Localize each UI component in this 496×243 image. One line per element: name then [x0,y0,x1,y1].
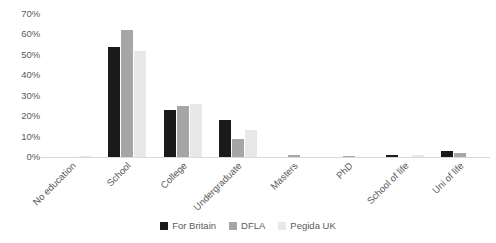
bar[interactable] [108,47,120,157]
y-axis-tick-label: 60% [0,29,40,39]
bar-group [433,14,489,157]
bar-group [266,14,322,157]
bar-group [377,14,433,157]
bar-group [100,14,156,157]
bar[interactable] [219,120,231,157]
y-axis: 70%60%50%40%30%20%10%0% [0,14,40,157]
x-axis-tick-label: Uni of life [430,160,466,196]
chart-legend: For BritainDFLAPegida UK [0,221,496,231]
y-axis-tick-label: 30% [0,91,40,101]
y-axis-tick-label: 50% [0,50,40,60]
bar-group [322,14,378,157]
plot-area [44,14,488,157]
y-axis-tick-label: 40% [0,70,40,80]
y-axis-tick-label: 70% [0,9,40,19]
bar-group [211,14,267,157]
x-axis-labels: No educationSchoolCollegeUndergraduateMa… [44,160,488,215]
bar-chart: 70%60%50%40%30%20%10%0% No educationScho… [0,0,496,243]
x-axis-line [40,157,490,158]
bar[interactable] [441,151,453,157]
x-axis-tick-label: College [158,160,189,191]
x-axis-tick-label: School [105,160,133,188]
legend-swatch-icon [229,222,237,230]
bar[interactable] [245,130,257,157]
bar-group [155,14,211,157]
legend-swatch-icon [278,222,286,230]
x-axis-tick-label: PhD [334,160,355,181]
legend-swatch-icon [160,222,168,230]
legend-item[interactable]: DFLA [229,221,265,231]
bar[interactable] [79,156,91,157]
y-axis-tick-label: 0% [0,152,40,162]
x-axis-tick-label: School of life [364,160,410,206]
bar[interactable] [454,153,466,157]
bar[interactable] [134,51,146,157]
bar[interactable] [121,30,133,157]
y-axis-tick-label: 20% [0,111,40,121]
bar[interactable] [232,139,244,157]
bar[interactable] [412,155,424,157]
legend-label: For Britain [172,221,216,231]
bar-group [44,14,100,157]
bar[interactable] [164,110,176,157]
legend-label: Pegida UK [290,221,335,231]
y-axis-tick-label: 10% [0,132,40,142]
bar[interactable] [177,106,189,157]
bar[interactable] [343,156,355,157]
x-axis-tick-label: Undergraduate [191,160,244,213]
legend-label: DFLA [241,221,265,231]
x-axis-tick-label: Masters [268,160,300,192]
x-axis-tick-label: No education [30,160,77,207]
bar[interactable] [386,155,398,157]
bar[interactable] [190,104,202,157]
legend-item[interactable]: Pegida UK [278,221,335,231]
legend-item[interactable]: For Britain [160,221,216,231]
bar[interactable] [288,155,300,157]
